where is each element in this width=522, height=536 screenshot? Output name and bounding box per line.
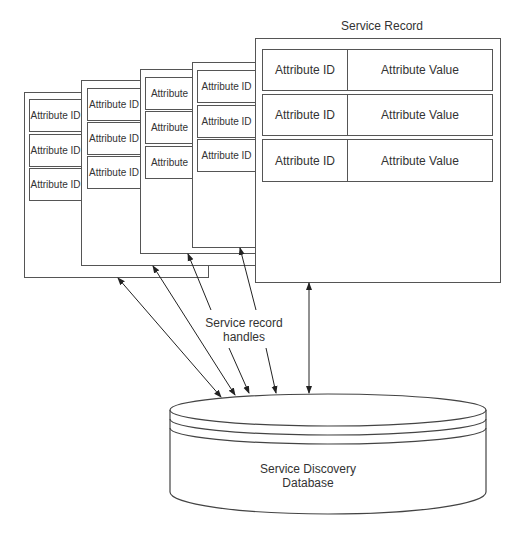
handle-arrow-4-down <box>266 348 276 393</box>
handle-arrow-3-down <box>229 348 249 393</box>
database-label: Service Discovery Database <box>238 462 378 490</box>
handle-arrow-3-up <box>188 254 211 310</box>
handle-arrow-4-up <box>240 248 256 310</box>
database-cylinder-icon <box>170 394 486 514</box>
handles-label-line1: Service record <box>196 316 292 330</box>
database-label-line1: Service Discovery <box>238 462 378 476</box>
connectors-and-database <box>0 0 522 536</box>
handles-label-line2: handles <box>196 330 292 344</box>
service-record-handles-label: Service record handles <box>196 316 292 344</box>
database-label-line2: Database <box>238 476 378 490</box>
